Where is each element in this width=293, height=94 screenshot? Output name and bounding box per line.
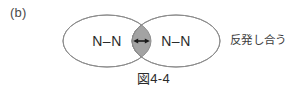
- repulsion-note: 反発し合う: [230, 32, 287, 48]
- figure-caption: 図4-4: [137, 70, 170, 87]
- left-molecule-label: N–N: [92, 33, 122, 49]
- right-molecule-label: N–N: [161, 33, 191, 49]
- figure-caption-row: 図4-4: [0, 70, 293, 87]
- figure-container: (b) N–N N–N 反発し合う 図4-4: [0, 0, 293, 94]
